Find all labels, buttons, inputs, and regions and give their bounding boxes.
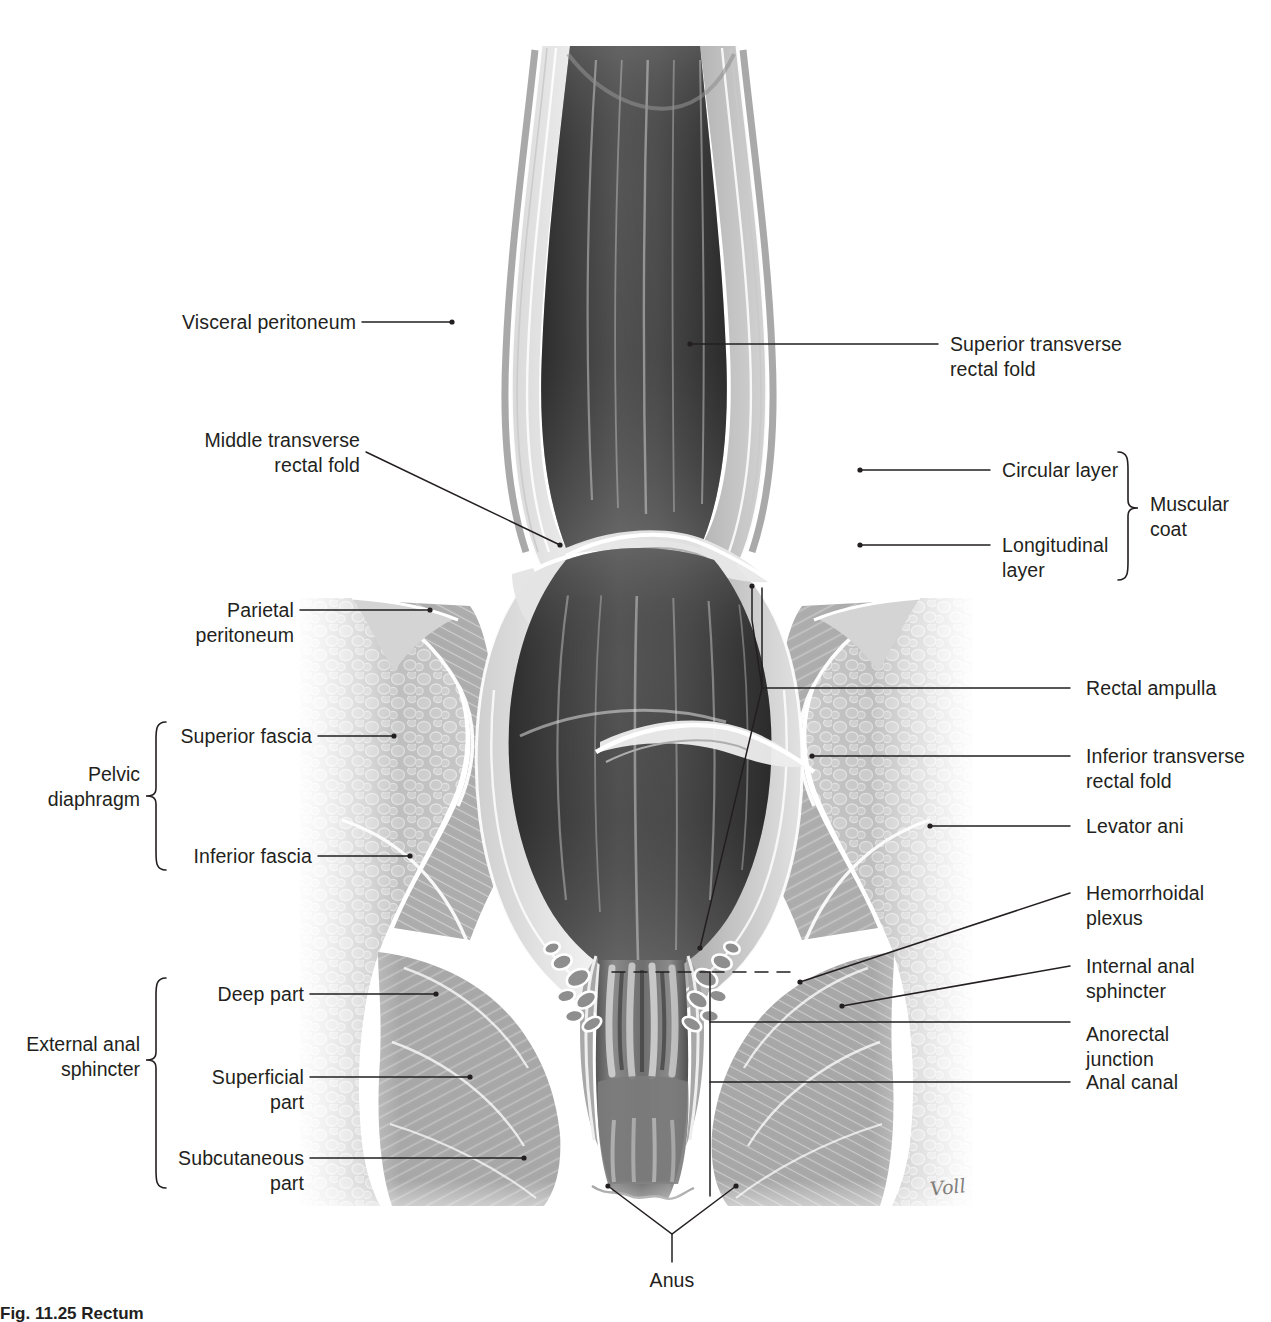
label-anorectal-junction: Anorectal junction <box>1086 1022 1271 1072</box>
leader-anal-canal <box>710 1022 1070 1196</box>
label-internal-anal-sphincter: Internal anal sphincter <box>1086 954 1271 1004</box>
label-superior-transverse-rectal-fold: Superior transverse rectal fold <box>950 332 1260 382</box>
label-inferior-fascia: Inferior fascia <box>20 844 312 869</box>
leader-deep-part <box>310 991 439 996</box>
leader-internal-anal-sphincter <box>839 966 1070 1009</box>
label-levator-ani: Levator ani <box>1086 814 1271 839</box>
group-label-muscular-coat: Muscular coat <box>1150 492 1270 542</box>
label-anal-canal: Anal canal <box>1086 1070 1271 1095</box>
leader-hemorrhoidal-plexus <box>797 893 1070 985</box>
group-label-pelvic-diaphragm: Pelvic diaphragm <box>0 762 140 812</box>
figure-canvas: Visceral peritoneum Middle transverse re… <box>0 0 1271 1322</box>
label-anus: Anus <box>602 1268 742 1293</box>
leader-subcutaneous-part <box>310 1155 527 1160</box>
label-circular-layer: Circular layer <box>1002 458 1242 483</box>
leader-middle-transverse-rectal-fold <box>366 452 563 548</box>
leader-rectal-ampulla <box>697 583 1070 950</box>
figure-title: Rectum <box>81 1304 143 1322</box>
leader-inferior-transverse-rectal-fold <box>809 753 1070 758</box>
label-deep-part: Deep part <box>20 982 304 1007</box>
leader-inferior-fascia <box>318 853 413 858</box>
leader-lines-layer <box>0 0 1271 1322</box>
label-rectal-ampulla: Rectal ampulla <box>1086 676 1271 701</box>
leader-anus <box>605 1183 738 1262</box>
label-visceral-peritoneum: Visceral peritoneum <box>20 310 356 335</box>
label-hemorrhoidal-plexus: Hemorrhoidal plexus <box>1086 881 1271 931</box>
leader-circular-layer <box>857 467 990 472</box>
leader-visceral-peritoneum <box>362 319 455 324</box>
figure-number: Fig. 11.25 <box>0 1304 77 1322</box>
leader-anorectal-junction <box>612 972 1070 1022</box>
label-subcutaneous-part: Subcutaneous part <box>20 1146 304 1196</box>
leader-superior-fascia <box>318 733 397 738</box>
artist-signature: Voll <box>929 1174 967 1200</box>
group-label-external-anal-sphincter: External anal sphincter <box>0 1032 140 1082</box>
label-parietal-peritoneum: Parietal peritoneum <box>20 598 294 648</box>
label-middle-transverse-rectal-fold: Middle transverse rectal fold <box>20 428 360 478</box>
label-inferior-transverse-rectal-fold: Inferior transverse rectal fold <box>1086 744 1271 794</box>
leader-superior-transverse-rectal-fold <box>687 341 938 346</box>
label-superior-fascia: Superior fascia <box>20 724 312 749</box>
leader-levator-ani <box>927 823 1070 828</box>
figure-caption: Fig. 11.25 Rectum <box>0 1304 144 1322</box>
leader-parietal-peritoneum <box>300 607 433 612</box>
leader-superficial-part <box>310 1074 473 1079</box>
leader-longitudinal-layer <box>857 542 990 547</box>
